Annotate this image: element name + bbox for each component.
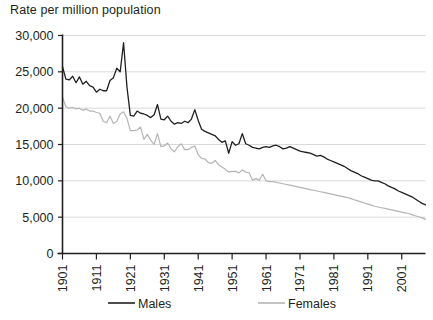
y-tick-label: 25,000 <box>15 65 53 79</box>
legend-label-males: Males <box>138 297 171 311</box>
y-tick-label: 5,000 <box>22 211 53 225</box>
gridlines <box>63 36 426 218</box>
y-tick-label: 0 <box>47 247 54 261</box>
legend-label-females: Females <box>288 297 336 311</box>
series-line-females <box>63 97 426 219</box>
line-chart-plot: 05,00010,00015,00020,00025,00030,000 190… <box>0 0 433 320</box>
y-tick-label: 15,000 <box>15 138 53 152</box>
y-tick-label: 20,000 <box>15 102 53 116</box>
x-tick-label: 1921 <box>124 264 138 292</box>
x-tick-label: 1961 <box>260 264 274 292</box>
y-tick-label: 10,000 <box>15 174 53 188</box>
x-tick-label: 1991 <box>361 264 375 292</box>
chart-legend: MalesFemales <box>108 297 336 311</box>
x-tick-label: 1911 <box>90 264 104 291</box>
x-tick-label: 1981 <box>327 264 341 292</box>
x-tick-label: 1971 <box>293 264 307 292</box>
y-tick-label: 30,000 <box>15 29 53 43</box>
x-axis-ticks: 1901191119211931194119511961197119811991… <box>56 254 409 293</box>
x-tick-label: 1901 <box>56 264 70 292</box>
x-tick-label: 2001 <box>395 264 409 292</box>
chart-figure: Rate per million population 05,00010,000… <box>0 0 433 320</box>
x-tick-label: 1941 <box>192 264 206 292</box>
x-tick-label: 1951 <box>226 264 240 292</box>
y-axis-ticks: 05,00010,00015,00020,00025,00030,000 <box>15 29 62 261</box>
data-series <box>63 43 426 220</box>
x-tick-label: 1931 <box>158 264 172 292</box>
